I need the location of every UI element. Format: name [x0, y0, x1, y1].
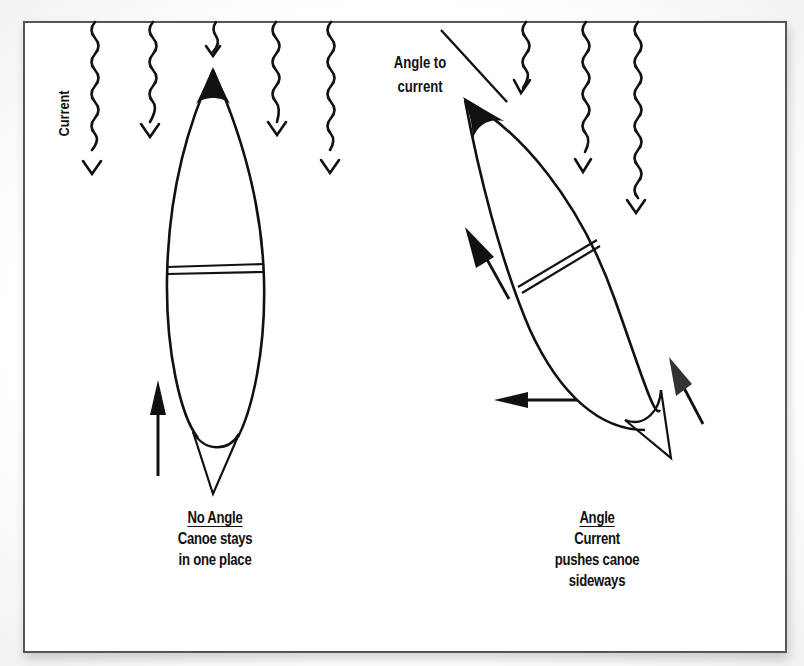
- canoe-angled: [463, 97, 671, 458]
- caption-no-angle: No Angle Canoe stays in one place: [154, 507, 277, 570]
- straight-arrow-icon: [669, 357, 703, 424]
- current-label: Current: [55, 84, 72, 144]
- straight-arrow-icon: [150, 380, 166, 476]
- canoe-no-angle: [167, 67, 264, 494]
- wavy-down-arrow-icon: [268, 22, 286, 135]
- caption-angle-line-2: pushes canoe: [536, 549, 659, 570]
- wavy-down-arrow-icon: [514, 22, 530, 93]
- caption-no-angle-title: No Angle: [154, 507, 277, 528]
- wavy-down-arrow-icon: [627, 22, 645, 213]
- wavy-down-arrow-icon: [575, 22, 591, 172]
- caption-angle-line-1: Current: [536, 528, 659, 549]
- angle-to-current-line-2: current: [379, 75, 461, 99]
- caption-angle-line-3: sideways: [536, 570, 659, 591]
- angle-to-current-label: Angle to current: [379, 51, 461, 99]
- caption-angle-title: Angle: [536, 507, 659, 528]
- wavy-down-arrow-icon: [321, 22, 339, 173]
- wavy-down-arrow-icon: [83, 22, 101, 174]
- straight-arrow-icon: [465, 227, 509, 299]
- caption-no-angle-line-2: in one place: [154, 549, 277, 570]
- caption-angle: Angle Current pushes canoe sideways: [536, 507, 659, 591]
- current-arrows-right: [514, 22, 645, 213]
- wavy-down-arrow-icon: [206, 22, 220, 56]
- caption-no-angle-line-1: Canoe stays: [154, 528, 277, 549]
- angle-to-current-line-1: Angle to: [379, 51, 461, 75]
- wavy-down-arrow-icon: [141, 22, 159, 137]
- straight-arrow-icon: [494, 392, 577, 408]
- canoe-current-diagram: [0, 0, 804, 666]
